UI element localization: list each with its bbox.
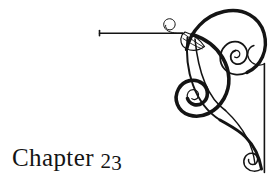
flourish-leaf-vein-1 xyxy=(184,34,204,48)
chapter-word: Chapter xyxy=(12,144,94,171)
flourish-main-s-curve xyxy=(176,35,229,117)
flourish-descending-tail xyxy=(220,120,262,169)
spiral-bottom-terminal xyxy=(244,153,262,171)
flourish-outer-arc-tail xyxy=(220,42,247,75)
chapter-number: 23 xyxy=(101,146,122,176)
flourish-petal-long xyxy=(187,38,220,121)
chapter-opening-page: Chapter 23 xyxy=(0,0,278,189)
flourish-descending-tail-inner xyxy=(226,111,256,165)
chapter-number-digit-one: 2 xyxy=(101,149,112,173)
flourish-leaf xyxy=(181,32,205,50)
spiral-right-connector xyxy=(248,46,265,66)
flourish-leaf-vein-2 xyxy=(183,39,202,49)
flourish-outer-arc xyxy=(187,11,266,73)
chapter-number-digit-two: 3 xyxy=(111,148,122,178)
spiral-inner-mid xyxy=(187,90,199,100)
chapter-space xyxy=(94,144,101,171)
flourish-petal-inner xyxy=(195,39,226,111)
page-title: Chapter 23 xyxy=(12,143,122,174)
spiral-small-left xyxy=(164,19,183,33)
spiral-upper-right xyxy=(235,50,240,57)
